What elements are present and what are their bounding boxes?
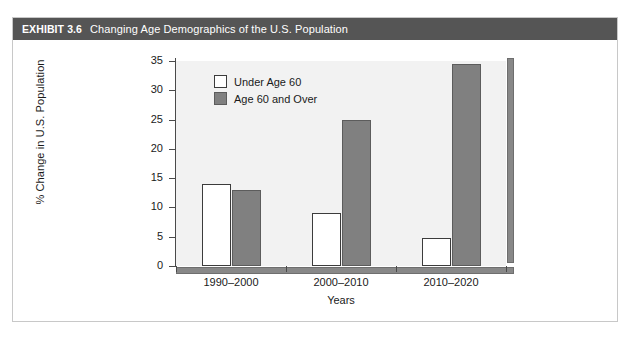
chart-legend: Under Age 60 Age 60 and Over — [214, 73, 317, 107]
exhibit-header: EXHIBIT 3.6 Changing Age Demographics of… — [13, 18, 617, 40]
x-axis-tick — [506, 266, 507, 272]
y-axis-title: % Change in U.S. Population — [34, 47, 46, 217]
y-axis-tick-label: 30 — [123, 84, 163, 95]
y-axis-tick-label: 20 — [123, 143, 163, 154]
y-axis-tick — [169, 149, 175, 150]
y-axis-tick-label: 5 — [123, 231, 163, 242]
x-axis-group-label: 1990–2000 — [171, 276, 291, 288]
legend-swatch-icon-under-age-60 — [214, 75, 227, 88]
bar-chart: % Change in U.S. Population Under Age 60… — [13, 40, 617, 323]
legend-item-under-age-60: Under Age 60 — [214, 73, 317, 90]
y-axis-tick-label: 15 — [123, 172, 163, 183]
y-axis-tick-label: 35 — [123, 55, 163, 66]
legend-label-age-60-and-over: Age 60 and Over — [234, 93, 317, 105]
plot-area: Under Age 60 Age 60 and Over — [176, 61, 506, 266]
y-axis-tick — [169, 90, 175, 91]
x-axis-tick — [396, 266, 397, 272]
y-axis-tick-label: 0 — [123, 260, 163, 271]
x-axis-tick — [176, 266, 177, 272]
x-axis-tick — [286, 266, 287, 272]
legend-swatch-icon-age-60-and-over — [214, 92, 227, 105]
y-axis-tick-label: 10 — [123, 201, 163, 212]
bar — [342, 120, 371, 266]
y-axis-line — [175, 58, 176, 267]
bar — [422, 238, 451, 266]
y-axis-tick — [169, 237, 175, 238]
exhibit-number-label: EXHIBIT 3.6 — [22, 23, 82, 35]
y-axis-tick — [169, 120, 175, 121]
legend-item-age-60-and-over: Age 60 and Over — [214, 90, 317, 107]
bar — [232, 190, 261, 266]
plot-floor-baseline — [176, 267, 514, 274]
y-axis-tick — [169, 266, 175, 267]
exhibit-title: Changing Age Demographics of the U.S. Po… — [90, 23, 348, 35]
x-axis-group-label: 2010–2020 — [391, 276, 511, 288]
y-axis-tick — [169, 61, 175, 62]
x-axis-group-label: 2000–2010 — [281, 276, 401, 288]
x-axis-title: Years — [176, 294, 506, 306]
y-axis-tick — [169, 178, 175, 179]
legend-label-under-age-60: Under Age 60 — [234, 76, 301, 88]
y-axis-tick-label: 25 — [123, 114, 163, 125]
exhibit-card: EXHIBIT 3.6 Changing Age Demographics of… — [12, 17, 618, 322]
y-axis-tick — [169, 207, 175, 208]
bar — [202, 184, 231, 266]
bar — [312, 213, 341, 266]
plot-right-wall — [507, 58, 514, 263]
bar — [452, 64, 481, 266]
